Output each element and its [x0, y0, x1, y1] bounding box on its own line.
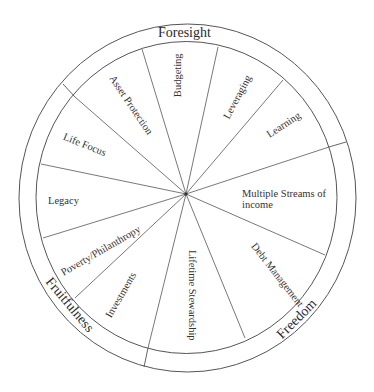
ring-divider-freedom-fruitfulness: [144, 348, 148, 367]
ring-label-foresight: Foresight: [158, 26, 211, 40]
segment-label-legacy: Legacy: [48, 196, 79, 207]
ring-divider-foresight-freedom: [329, 142, 346, 147]
segment-label-budgeting: Budgeting: [173, 53, 184, 97]
ring-divider-foresight-fruitfulness: [63, 84, 75, 97]
center-dot: [184, 192, 187, 195]
segment-label-multiple-streams: Multiple Streams of income: [242, 188, 334, 210]
segment-label-lifetime-stewardship: Lifetime Stewardship: [186, 250, 197, 341]
